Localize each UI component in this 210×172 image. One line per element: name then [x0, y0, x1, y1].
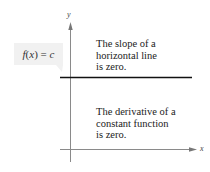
- x-axis-arrow-icon: [189, 147, 197, 151]
- equals-sign: =: [38, 48, 50, 60]
- constant-c: c: [50, 48, 55, 60]
- function-label-box: f(x) = c: [14, 43, 63, 65]
- label-box-tail: [56, 65, 63, 72]
- graph-axes: [0, 0, 210, 172]
- slope-annotation: The slope of a horizontal line is zero.: [96, 38, 157, 73]
- constant-function-diagram: y x f(x) = c The slope of a horizontal l…: [0, 0, 210, 172]
- x-axis-label: x: [200, 144, 204, 153]
- derivative-annotation: The derivative of a constant function is…: [96, 106, 176, 141]
- y-axis-arrow-icon: [68, 22, 72, 30]
- y-axis-label: y: [67, 10, 71, 19]
